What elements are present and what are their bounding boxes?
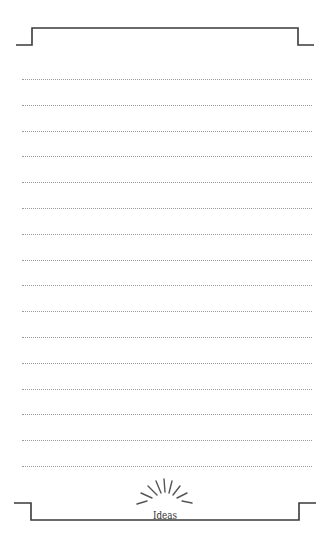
- writing-line: [22, 208, 312, 209]
- writing-line: [22, 440, 312, 441]
- writing-line: [22, 337, 312, 338]
- writing-line: [22, 105, 312, 106]
- writing-line: [22, 363, 312, 364]
- writing-line: [22, 156, 312, 157]
- sunburst-icon: [137, 479, 192, 504]
- writing-line: [22, 389, 312, 390]
- writing-line: [22, 414, 312, 415]
- writing-line: [22, 234, 312, 235]
- top-border: [16, 28, 314, 45]
- writing-line: [22, 311, 312, 312]
- writing-line: [22, 79, 312, 80]
- ideas-label: Ideas: [33, 509, 297, 522]
- writing-line: [22, 131, 312, 132]
- writing-line: [22, 182, 312, 183]
- writing-line: [22, 260, 312, 261]
- notepad-frame: [0, 0, 330, 537]
- writing-line: [22, 285, 312, 286]
- writing-line: [22, 466, 312, 467]
